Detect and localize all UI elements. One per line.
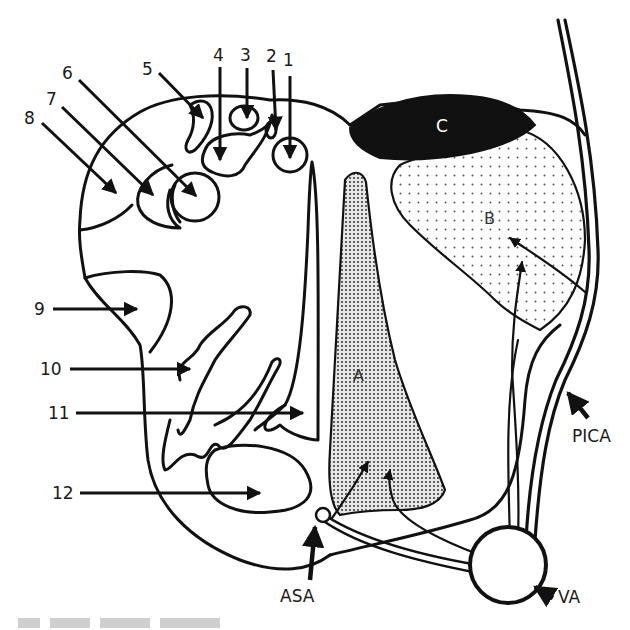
va-label: VA [558,587,581,607]
structure-9 [85,272,171,352]
label-6: 6 [62,63,73,83]
pica-label: PICA [572,426,611,446]
asa-label: ASA [280,586,315,606]
label-12: 12 [52,483,74,503]
label-7: 7 [46,89,57,109]
structure-4 [202,115,272,176]
label-9: 9 [34,299,45,319]
structure-12 [206,445,311,512]
label-4: 4 [213,45,224,65]
asa-circle [316,508,330,522]
caption-block [50,618,90,628]
region-a-label: A [353,366,364,385]
raphe [265,162,318,440]
medulla-blood-supply-diagram: C 1 2 3 [0,0,630,630]
label-10: 10 [40,359,62,379]
caption-block [160,618,220,628]
label-11: 11 [48,403,70,423]
label-8: 8 [24,108,35,128]
label-5: 5 [142,59,153,79]
label-1: 1 [283,50,294,70]
structure-3 [230,106,258,130]
va-circle [470,527,546,603]
figure-caption-cutoff [18,618,220,630]
region-c-label: C [436,116,448,136]
label-2: 2 [266,46,277,66]
caption-block [18,618,40,628]
caption-block [100,618,150,628]
region-b-label: B [484,209,495,228]
label-3: 3 [240,45,251,65]
